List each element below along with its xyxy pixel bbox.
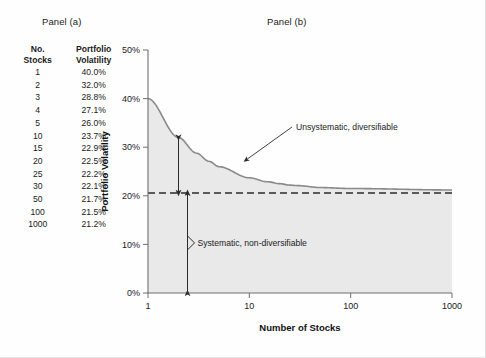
table-cell-stocks: 2 <box>14 79 61 92</box>
chart-svg: 0%10%20%30%40%50% 1101001000 Portfolio V… <box>96 30 476 340</box>
table-cell-stocks: 50 <box>14 193 61 206</box>
y-tick-label: 40% <box>122 94 140 104</box>
x-tick-label: 1000 <box>442 301 462 311</box>
table-cell-stocks: 30 <box>14 180 61 193</box>
y-tick-label: 0% <box>127 288 140 298</box>
y-tick-label: 50% <box>122 45 140 55</box>
table-cell-stocks: 20 <box>14 155 61 168</box>
y-tick-label: 10% <box>122 240 140 250</box>
y-axis-ticks: 0%10%20%30%40%50% <box>122 45 148 298</box>
unsystematic-leader-line <box>246 127 292 160</box>
table-cell-stocks: 100 <box>14 206 61 219</box>
table-cell-stocks: 3 <box>14 91 61 104</box>
table-cell-stocks: 1000 <box>14 218 61 231</box>
y-axis-title: Portfolio Volatility <box>99 130 110 211</box>
table-header-stocks: No. Stocks <box>14 44 61 66</box>
figure-page: Panel (a) Panel (b) No. Stocks Portfolio… <box>0 0 486 358</box>
panel-a-title: Panel (a) <box>42 16 81 27</box>
x-tick-label: 1 <box>145 301 150 311</box>
table-header-stocks-line2: Stocks <box>14 55 61 66</box>
table-cell-stocks: 5 <box>14 117 61 130</box>
table-cell-stocks: 1 <box>14 66 61 79</box>
annotation-systematic: Systematic, non-diversifiable <box>198 238 308 248</box>
x-tick-label: 100 <box>343 301 358 311</box>
x-tick-label: 10 <box>244 301 254 311</box>
diversification-chart: 0%10%20%30%40%50% 1101001000 Portfolio V… <box>96 30 476 340</box>
table-cell-stocks: 15 <box>14 142 61 155</box>
table-cell-stocks: 25 <box>14 168 61 181</box>
y-tick-label: 30% <box>122 142 140 152</box>
table-cell-stocks: 4 <box>14 104 61 117</box>
x-axis-ticks: 1101001000 <box>145 293 462 311</box>
panel-b-title: Panel (b) <box>267 16 306 27</box>
y-tick-label: 20% <box>122 191 140 201</box>
x-axis-title: Number of Stocks <box>259 322 340 333</box>
table-cell-stocks: 10 <box>14 129 61 142</box>
table-header-stocks-line1: No. <box>31 44 45 54</box>
annotation-unsystematic: Unsystematic, diversifiable <box>296 122 398 132</box>
